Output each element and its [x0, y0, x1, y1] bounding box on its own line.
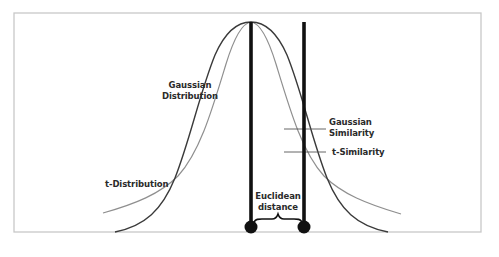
euclidean-distance-label-line2: distance — [253, 202, 303, 213]
t-similarity-label: t-Similarity — [332, 147, 385, 158]
gaussian-similarity-label-line1: Gaussian — [329, 117, 374, 128]
gaussian-similarity-label-line2: Similarity — [329, 128, 374, 139]
gaussian-distribution-label-line2: Distribution — [160, 91, 220, 102]
euclidean-distance-label: Euclidean distance — [253, 191, 303, 213]
distribution-diagram — [0, 0, 499, 257]
euclidean-distance-brace — [254, 214, 302, 222]
reference-point — [245, 221, 258, 234]
gaussian-distribution-label: Gaussian Distribution — [160, 80, 220, 102]
neighbor-point — [298, 221, 311, 234]
t-distribution-label: t-Distribution — [105, 179, 168, 190]
diagram-frame — [14, 13, 481, 232]
gaussian-similarity-label: Gaussian Similarity — [329, 117, 374, 139]
euclidean-distance-label-line1: Euclidean — [253, 191, 303, 202]
gaussian-distribution-label-line1: Gaussian — [160, 80, 220, 91]
